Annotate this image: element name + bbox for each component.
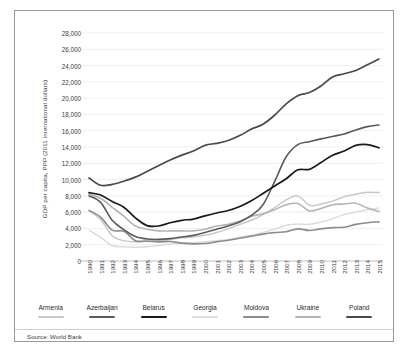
legend-label: Azerbaijan <box>76 303 127 312</box>
legend-label: Georgia <box>179 303 230 312</box>
x-axis-tick-label: 1991 <box>97 260 104 274</box>
x-axis-tick-label: 2004 <box>248 260 255 274</box>
x-axis-tick-label: 2011 <box>329 260 336 273</box>
legend-divider <box>15 329 393 330</box>
x-axis-tick: 2007 <box>281 260 291 300</box>
x-axis-tick-label: 2000 <box>202 260 209 274</box>
y-axis-tick: 2,000 <box>39 241 81 248</box>
x-axis-tick: 2006 <box>270 260 280 300</box>
x-axis-tick-label: 1997 <box>167 260 174 274</box>
x-axis-tick: 1995 <box>142 260 152 300</box>
y-axis-tick: 14,000 <box>39 144 81 151</box>
legend-swatch <box>38 316 64 318</box>
legend-label: Poland <box>334 303 385 312</box>
x-axis-tick: 1998 <box>177 260 187 300</box>
legend-item-moldova[interactable]: Moldova <box>231 303 282 318</box>
x-axis-tick: 1992 <box>107 260 117 300</box>
y-axis-tick: 20,000 <box>39 95 81 102</box>
x-axis-tick-label: 1990 <box>86 260 93 274</box>
y-axis-tick: 10,000 <box>39 176 81 183</box>
chart-legend: ArmeniaAzerbaijanBelarusGeorgiaMoldovaUk… <box>25 303 385 331</box>
x-axis-tick: 2002 <box>223 260 233 300</box>
x-axis-tick: 2011 <box>328 260 338 300</box>
legend-swatch <box>192 316 218 318</box>
x-axis-tick: 2013 <box>351 260 361 300</box>
legend-item-azerbaijan[interactable]: Azerbaijan <box>76 303 127 318</box>
x-axis-tick: 2004 <box>246 260 256 300</box>
chart-area: GDP per capita, PPP (2011 international … <box>15 11 393 303</box>
y-axis-tick-labels: 28,00026,00024,00022,00020,00018,00016,0… <box>35 11 81 303</box>
x-axis-tick: 2012 <box>339 260 349 300</box>
y-axis-tick: 22,000 <box>39 78 81 85</box>
legend-swatch <box>141 316 167 318</box>
legend-item-armenia[interactable]: Armenia <box>25 303 76 318</box>
legend-item-georgia[interactable]: Georgia <box>179 303 230 318</box>
legend-label: Armenia <box>25 303 76 312</box>
x-axis-tick-label: 1996 <box>155 260 162 274</box>
x-axis-tick: 2001 <box>212 260 222 300</box>
y-axis-tick: 24,000 <box>39 62 81 69</box>
x-axis-tick: 2015 <box>374 260 384 300</box>
x-axis-tick: 1997 <box>165 260 175 300</box>
x-axis-tick: 2005 <box>258 260 268 300</box>
legend-label: Moldova <box>231 303 282 312</box>
y-axis-tick: 8,000 <box>39 192 81 199</box>
x-axis-tick-label: 2010 <box>318 260 325 274</box>
legend-label: Belarus <box>128 303 179 312</box>
legend-label: Ukraine <box>282 303 333 312</box>
x-axis-tick: 2009 <box>304 260 314 300</box>
x-axis-tick-label: 2014 <box>364 260 371 274</box>
x-axis-tick-label: 2005 <box>260 260 267 274</box>
x-axis-tick-label: 1993 <box>120 260 127 274</box>
x-axis-tick: 2000 <box>200 260 210 300</box>
x-axis-tick-label: 1998 <box>178 260 185 274</box>
x-axis-tick-labels: 1990199119921993199419951996199719981999… <box>81 260 383 304</box>
x-axis-tick: 1993 <box>119 260 129 300</box>
legend-item-belarus[interactable]: Belarus <box>128 303 179 318</box>
legend-swatch <box>346 316 372 318</box>
legend-item-ukraine[interactable]: Ukraine <box>282 303 333 318</box>
x-axis-tick-label: 2009 <box>306 260 313 274</box>
x-axis-tick-label: 1999 <box>190 260 197 274</box>
x-axis-tick: 1991 <box>96 260 106 300</box>
series-line-belarus <box>89 144 379 226</box>
x-axis-tick-label: 2012 <box>341 260 348 274</box>
legend-item-poland[interactable]: Poland <box>334 303 385 318</box>
y-axis-tick: 12,000 <box>39 160 81 167</box>
legend-swatch <box>89 316 115 318</box>
x-axis-tick-label: 2015 <box>376 260 383 274</box>
x-axis-tick: 2003 <box>235 260 245 300</box>
figure-panel: GDP per capita, PPP (2011 international … <box>14 10 394 342</box>
x-axis-tick: 2014 <box>362 260 372 300</box>
y-axis-tick: 0 <box>39 258 81 265</box>
legend-swatch <box>295 316 321 318</box>
y-axis-tick: 18,000 <box>39 111 81 118</box>
y-axis-tick: 26,000 <box>39 46 81 53</box>
x-axis-tick: 2010 <box>316 260 326 300</box>
x-axis-tick-label: 1992 <box>109 260 116 274</box>
y-axis-tick: 16,000 <box>39 127 81 134</box>
x-axis-tick-label: 2006 <box>271 260 278 274</box>
x-axis-tick-label: 2001 <box>213 260 220 274</box>
x-axis-tick-label: 1995 <box>144 260 151 274</box>
x-axis-tick-label: 2008 <box>294 260 301 274</box>
x-axis-tick: 1996 <box>154 260 164 300</box>
x-axis-tick-label: 1994 <box>132 260 139 274</box>
x-axis-tick: 1994 <box>130 260 140 300</box>
source-note: Source: World Bank <box>27 333 82 340</box>
y-axis-tick: 4,000 <box>39 225 81 232</box>
y-axis-tick: 28,000 <box>39 30 81 37</box>
x-axis-tick-label: 2003 <box>236 260 243 274</box>
x-axis-tick-label: 2007 <box>283 260 290 274</box>
x-axis-tick: 1999 <box>188 260 198 300</box>
x-axis-tick: 1990 <box>84 260 94 300</box>
series-line-poland <box>89 59 379 186</box>
x-axis-tick-label: 2002 <box>225 260 232 274</box>
legend-swatch <box>243 316 269 318</box>
y-axis-tick: 6,000 <box>39 209 81 216</box>
x-axis-tick: 2008 <box>293 260 303 300</box>
x-axis-tick-label: 2013 <box>352 260 359 274</box>
